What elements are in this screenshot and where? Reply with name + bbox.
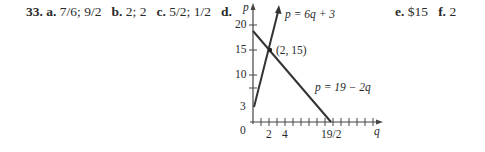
y-tick-3: 3 [240,100,246,112]
supply-equation-label: p = 6q + 3 [285,8,335,20]
x-tick-4: 4 [282,128,288,140]
x-tick-19-2: 19/2 [321,128,341,140]
x-tick-2: 2 [266,128,272,140]
y-tick-10: 10 [235,68,247,80]
origin-label: 0 [240,124,246,136]
y-tick-20: 20 [235,18,247,30]
x-axis-arrow-icon [376,120,383,125]
intersection-point [268,48,272,52]
y-tick-15: 15 [235,43,247,55]
y-axis-arrow-icon [251,3,256,10]
demand-equation-label: p = 19 − 2q [315,81,371,93]
y-axis-label: p [243,1,249,13]
supply-line [254,12,278,107]
supply-arrow-icon [275,5,282,14]
intersection-label: (2, 15) [276,44,307,56]
x-axis-label: q [374,125,380,137]
